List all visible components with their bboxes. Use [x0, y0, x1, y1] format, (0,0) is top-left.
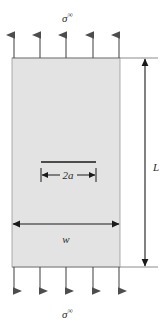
- infinity-superscript-bottom: ∞: [67, 306, 72, 315]
- stress-label-bottom: σ∞: [62, 306, 73, 320]
- bottom-load-arrows: [14, 267, 119, 291]
- plate-width-label: w: [62, 233, 70, 245]
- infinity-superscript-top: ∞: [67, 10, 72, 19]
- center-cracked-plate-diagram: 2a w L σ∞ σ∞: [0, 0, 167, 331]
- crack-length-label: 2a: [63, 169, 75, 181]
- plate-length-label: L: [152, 161, 159, 173]
- plate-length-dimension: L: [145, 59, 159, 266]
- top-load-arrows: [14, 35, 119, 58]
- stress-label-top: σ∞: [62, 10, 73, 24]
- figure-container: 2a w L σ∞ σ∞: [0, 0, 167, 331]
